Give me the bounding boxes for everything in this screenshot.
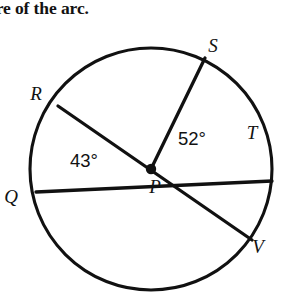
circle-diagram: S R T Q V P 43° 52° [0,0,288,302]
point-label-v: V [252,236,266,257]
radius-p-s [151,58,205,169]
point-label-q: Q [4,186,18,207]
angle-label-qpr: 43° [70,150,98,171]
diameter-r-v [58,106,252,240]
angle-label-spt: 52° [178,128,206,149]
point-label-r: R [29,83,42,104]
center-point-dot [146,164,156,174]
point-label-s: S [208,35,218,56]
figure-page: ure of the arc. S R T Q V P 43° 52° [0,0,288,302]
point-label-t: T [247,122,259,143]
point-label-p: P [148,176,161,197]
